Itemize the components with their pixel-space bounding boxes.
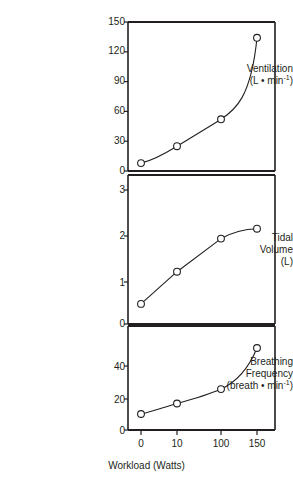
tidal-volume-point-10	[174, 268, 181, 275]
ventilation-frame	[128, 22, 275, 171]
breathing-frequency-point-100	[218, 386, 225, 393]
xtick-10: 10	[162, 439, 192, 449]
tidal-volume-data-markers	[138, 225, 261, 307]
breathing-frequency-series-line	[141, 348, 257, 414]
breathing-frequency-point-150	[254, 345, 261, 352]
ventilation-point-100	[218, 116, 225, 123]
xtick-100: 100	[206, 439, 236, 449]
breathing-frequency-data-markers	[138, 345, 261, 418]
breathing-frequency-frame	[128, 326, 275, 430]
ventilation-series-line	[141, 38, 257, 163]
x-axis-title: Workload (Watts)	[0, 460, 293, 471]
tidal-volume-frame	[128, 175, 275, 324]
xtick-150: 150	[242, 439, 272, 449]
respiratory-response-figure: Ventilation (L • min-1) 150 120 90 60 30…	[0, 0, 293, 484]
xtick-0: 0	[126, 439, 156, 449]
ventilation-data-markers	[138, 34, 261, 166]
tidal-volume-point-150	[254, 225, 261, 232]
breathing-frequency-point-0	[138, 411, 145, 418]
panel-ventilation: Ventilation (L • min-1) 150 120 90 60 30…	[0, 0, 293, 175]
breathing-frequency-point-10	[174, 400, 181, 407]
ventilation-point-10	[174, 143, 181, 150]
tidal-volume-point-0	[138, 301, 145, 308]
tidal-volume-point-100	[218, 235, 225, 242]
tidal-volume-series-line	[141, 229, 257, 304]
ventilation-point-0	[138, 160, 145, 167]
tidal-volume-plot	[120, 174, 280, 329]
ventilation-plot	[120, 12, 280, 180]
ventilation-point-150	[254, 34, 261, 41]
panel-breathing-frequency: Breathing Frequency (breath • min-1) 40 …	[0, 326, 293, 484]
panel-tidal-volume: Tidal Volume (L) 3 2 1 0	[0, 175, 293, 326]
